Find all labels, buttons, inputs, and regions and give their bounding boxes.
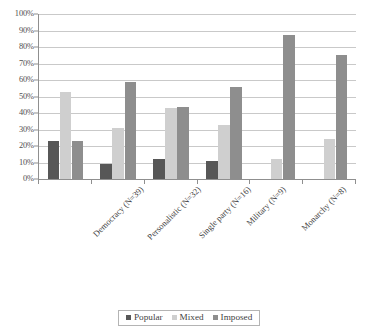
legend-label: Imposed bbox=[221, 313, 253, 322]
y-tick-label: 40% bbox=[19, 109, 34, 117]
bar-mixed bbox=[112, 128, 124, 179]
bar-group bbox=[39, 14, 92, 179]
x-axis-labels: Democracy (N=39)Personalistic (N=32)Sing… bbox=[0, 183, 367, 293]
y-tick-label: 20% bbox=[19, 142, 34, 150]
y-axis-labels: 0%10%20%30%40%50%60%70%80%90%100% bbox=[0, 14, 34, 179]
y-tick-mark bbox=[34, 146, 38, 147]
bars-layer bbox=[39, 14, 356, 179]
y-tick-mark bbox=[34, 113, 38, 114]
legend-item[interactable]: Imposed bbox=[213, 313, 253, 322]
y-tick-label: 0% bbox=[23, 175, 34, 183]
bar-imposed bbox=[336, 55, 348, 179]
x-axis-category-label: Personalistic (N=32) bbox=[146, 185, 203, 242]
x-axis-category-label: Single party (N=16) bbox=[198, 185, 253, 240]
x-axis-category-label: Monarchy (N=8) bbox=[300, 185, 347, 232]
x-axis-category-label: Democracy (N=39) bbox=[91, 185, 145, 239]
bar-chart: 0%10%20%30%40%50%60%70%80%90%100% Democr… bbox=[0, 0, 367, 335]
y-tick-mark bbox=[34, 14, 38, 15]
y-tick-label: 70% bbox=[19, 59, 34, 67]
y-tick-label: 60% bbox=[19, 76, 34, 84]
chart-legend: PopularMixedImposed bbox=[118, 310, 260, 326]
legend-label: Mixed bbox=[180, 313, 204, 322]
y-tick-mark bbox=[34, 30, 38, 31]
legend-item[interactable]: Popular bbox=[126, 313, 163, 322]
bar-mixed bbox=[165, 108, 177, 179]
bar-group bbox=[250, 14, 303, 179]
y-tick-mark bbox=[34, 96, 38, 97]
bar-popular bbox=[153, 159, 165, 179]
imposed-swatch-icon bbox=[213, 315, 218, 320]
bar-imposed bbox=[177, 107, 189, 179]
bar-mixed bbox=[218, 125, 230, 179]
bar-popular bbox=[206, 161, 218, 179]
y-tick-mark bbox=[34, 63, 38, 64]
legend-label: Popular bbox=[134, 313, 163, 322]
bar-imposed bbox=[125, 82, 137, 179]
y-tick-mark bbox=[34, 129, 38, 130]
bar-group bbox=[198, 14, 251, 179]
bar-imposed bbox=[230, 87, 242, 179]
y-tick-label: 80% bbox=[19, 43, 34, 51]
bar-imposed bbox=[283, 35, 295, 179]
popular-swatch-icon bbox=[126, 315, 131, 320]
bar-mixed bbox=[271, 159, 283, 179]
y-tick-label: 50% bbox=[19, 92, 34, 100]
mixed-swatch-icon bbox=[172, 315, 177, 320]
bar-group bbox=[92, 14, 145, 179]
y-tick-label: 30% bbox=[19, 125, 34, 133]
bar-imposed bbox=[72, 141, 84, 179]
y-tick-label: 10% bbox=[19, 158, 34, 166]
y-tick-mark bbox=[34, 80, 38, 81]
bar-mixed bbox=[324, 139, 336, 179]
y-tick-mark bbox=[34, 47, 38, 48]
y-tick-mark bbox=[34, 162, 38, 163]
bar-group bbox=[145, 14, 198, 179]
legend-item[interactable]: Mixed bbox=[172, 313, 204, 322]
bar-popular bbox=[100, 164, 112, 179]
y-tick-label: 90% bbox=[19, 26, 34, 34]
bar-group bbox=[303, 14, 356, 179]
bar-popular bbox=[48, 141, 60, 179]
y-tick-label: 100% bbox=[15, 10, 34, 18]
bar-mixed bbox=[60, 92, 72, 179]
